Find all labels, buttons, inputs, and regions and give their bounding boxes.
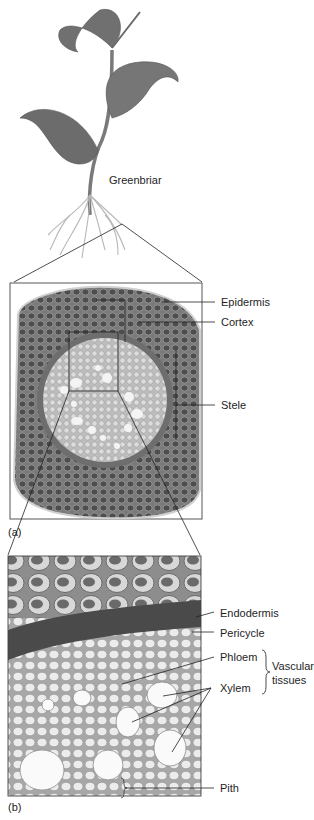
vascular-tissues-label-line2: tissues: [272, 674, 306, 686]
epidermis-label: Epidermis: [221, 296, 270, 308]
cortex-label: Cortex: [221, 316, 253, 328]
pericycle-label: Pericycle: [220, 627, 265, 639]
root-cross-section: [14, 287, 200, 518]
diagram-canvas: [0, 0, 314, 820]
magnified-section: [8, 556, 201, 796]
pith-label: Pith: [220, 782, 239, 794]
plant-illustration: [20, 9, 178, 258]
plant-name-label: Greenbriar: [109, 174, 162, 186]
panel-a-tag: (a): [8, 526, 21, 538]
stele-label: Stele: [221, 399, 246, 411]
vascular-tissues-label-line1: Vascular: [272, 660, 314, 672]
phloem-label: Phloem: [220, 651, 257, 663]
panel-b-tag: (b): [8, 801, 21, 813]
xylem-label: Xylem: [220, 682, 251, 694]
endodermis-label: Endodermis: [220, 607, 279, 619]
